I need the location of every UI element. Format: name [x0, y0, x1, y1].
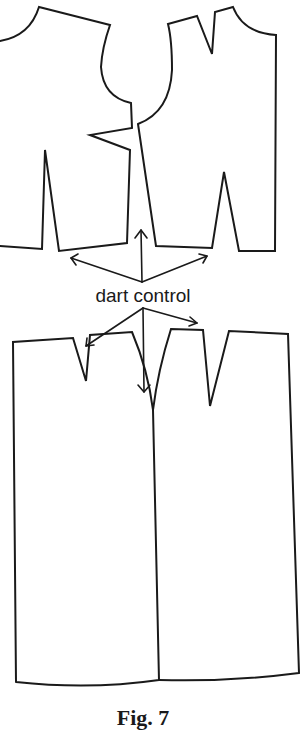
dart-control-label: dart control	[0, 285, 286, 307]
left-bodice-piece	[0, 7, 132, 251]
lower-dart-control-arrows	[86, 308, 197, 392]
right-bodice-piece	[138, 7, 276, 251]
figure-caption: Fig. 7	[0, 705, 286, 731]
right-skirt-piece	[153, 329, 299, 680]
upper-dart-control-arrows	[71, 230, 207, 282]
left-skirt-piece	[13, 332, 159, 686]
